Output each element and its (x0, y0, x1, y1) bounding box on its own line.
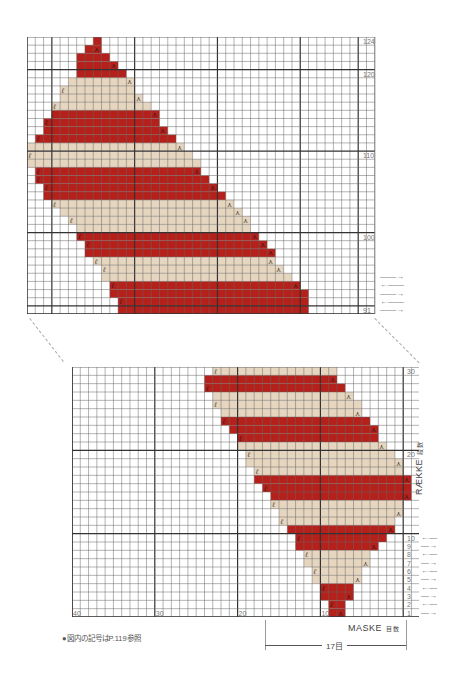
svg-text:ℓ: ℓ (36, 168, 40, 176)
svg-text:⋏: ⋏ (210, 184, 215, 192)
svg-text:ℓ: ℓ (61, 87, 65, 95)
svg-text:ℓ: ℓ (329, 601, 333, 609)
col-label: 20 (239, 610, 247, 617)
svg-text:⋏: ⋏ (136, 95, 141, 103)
svg-text:⋏: ⋏ (388, 526, 393, 534)
svg-text:⋏: ⋏ (404, 493, 409, 501)
svg-text:⋏: ⋏ (252, 233, 257, 241)
svg-text:⋏: ⋏ (94, 46, 99, 54)
svg-text:ℓ: ℓ (36, 135, 40, 143)
svg-text:⋏: ⋏ (371, 543, 376, 551)
row-label: 124 (363, 38, 375, 45)
svg-text:ℓ: ℓ (119, 298, 123, 306)
svg-text:ℓ: ℓ (304, 551, 308, 559)
svg-text:ℓ: ℓ (313, 568, 317, 576)
chart-top: ⋏⋏⋏ℓ⋏ℓ⋏ℓ⋏ℓ⋏ℓℓ⋏ℓℓ⋏ℓ⋏⋏ℓ⋏ℓ⋏ℓ⋏⋏ℓ⋏ℓ⋏ℓ⋏ℓ (27, 37, 376, 314)
svg-text:⋏: ⋏ (276, 266, 281, 274)
svg-text:ℓ: ℓ (44, 184, 48, 192)
connector-left (29, 318, 64, 362)
svg-text:⋏: ⋏ (346, 593, 351, 601)
svg-text:ℓ: ℓ (280, 518, 284, 526)
svg-text:ℓ: ℓ (255, 468, 259, 476)
svg-text:ℓ: ℓ (238, 435, 242, 443)
svg-text:ℓ: ℓ (263, 485, 267, 493)
svg-text:ℓ: ℓ (102, 266, 106, 274)
row-label: 10 (407, 535, 415, 542)
col-label: 30 (156, 610, 164, 617)
chart-bottom: ℓ⋏ℓ⋏ℓ⋏ℓ⋏ℓ⋏ℓ⋏ℓ⋏ℓ⋏ℓ⋏ℓ⋏ℓ⋏ℓ⋏ℓ⋏ℓ⋏ℓ⋏ (72, 367, 419, 617)
chart-bottom-grid: ℓ⋏ℓ⋏ℓ⋏ℓ⋏ℓ⋏ℓ⋏ℓ⋏ℓ⋏ℓ⋏ℓ⋏ℓ⋏ℓ⋏ℓ⋏ℓ⋏ℓ⋏ (72, 367, 419, 617)
svg-text:⋏: ⋏ (355, 410, 360, 418)
svg-text:ℓ: ℓ (36, 176, 40, 184)
svg-text:⋏: ⋏ (194, 168, 199, 176)
svg-text:ℓ: ℓ (213, 368, 217, 376)
svg-text:⋏: ⋏ (404, 476, 409, 484)
row-label: 1 (407, 610, 411, 617)
col-label: 40 (73, 610, 81, 617)
svg-text:⋏: ⋏ (127, 78, 132, 86)
col-label: 10 (321, 610, 329, 617)
svg-text:⋏: ⋏ (330, 376, 335, 384)
rows-axis-label: RÆKKE段数 (414, 442, 424, 495)
svg-text:⋏: ⋏ (268, 258, 273, 266)
symbol-note: ●図内の記号はP.119参照 (62, 632, 141, 643)
chart-top-grid: ⋏⋏⋏ℓ⋏ℓ⋏ℓ⋏ℓ⋏ℓℓ⋏ℓℓ⋏ℓ⋏⋏ℓ⋏ℓ⋏ℓ⋏⋏ℓ⋏ℓ⋏ℓ⋏ℓ (27, 37, 376, 314)
svg-text:⋏: ⋏ (396, 510, 401, 518)
row-label: 7 (407, 560, 411, 567)
svg-text:⋏: ⋏ (371, 426, 376, 434)
svg-text:ℓ: ℓ (85, 241, 89, 249)
stitches-axis-label: MASKE目数 (348, 623, 399, 633)
svg-text:⋏: ⋏ (243, 217, 248, 225)
row-label: 110 (363, 152, 374, 159)
svg-text:⋏: ⋏ (111, 62, 116, 70)
svg-text:⋏: ⋏ (152, 111, 157, 119)
svg-text:ℓ: ℓ (44, 119, 48, 127)
row-label: 30 (407, 368, 415, 375)
row-label: 6 (407, 568, 411, 575)
svg-text:ℓ: ℓ (52, 201, 56, 209)
row-label: 3 (407, 593, 411, 600)
svg-text:⋏: ⋏ (177, 144, 182, 152)
svg-text:ℓ: ℓ (205, 385, 209, 393)
svg-text:⋏: ⋏ (268, 249, 273, 257)
svg-text:ℓ: ℓ (52, 103, 56, 111)
svg-text:ℓ: ℓ (271, 501, 275, 509)
svg-text:ℓ: ℓ (296, 535, 300, 543)
svg-text:⋏: ⋏ (160, 127, 165, 135)
row-label: 120 (363, 71, 375, 78)
svg-text:ℓ: ℓ (94, 258, 98, 266)
svg-text:ℓ: ℓ (213, 401, 217, 409)
svg-text:⋏: ⋏ (260, 241, 265, 249)
arrow-right-icon: —→ (421, 609, 437, 617)
row-label: 8 (407, 551, 411, 558)
svg-text:⋏: ⋏ (346, 393, 351, 401)
svg-text:⋏: ⋏ (227, 201, 232, 209)
svg-text:ℓ: ℓ (321, 585, 325, 593)
stitch-count-label: 17目 (322, 640, 347, 651)
svg-text:⋏: ⋏ (379, 443, 384, 451)
svg-text:ℓ: ℓ (28, 152, 32, 160)
row-label: 5 (407, 576, 411, 583)
svg-text:⋏: ⋏ (338, 610, 343, 618)
svg-text:⋏: ⋏ (396, 460, 401, 468)
svg-text:ℓ: ℓ (69, 217, 73, 225)
svg-text:⋏: ⋏ (293, 282, 298, 290)
row-label: 100 (363, 234, 375, 241)
row-label: 91 (363, 307, 371, 314)
svg-text:⋏: ⋏ (235, 209, 240, 217)
svg-text:ℓ: ℓ (110, 282, 114, 290)
dimension-right-tick (406, 620, 407, 650)
svg-text:⋏: ⋏ (355, 576, 360, 584)
svg-text:ℓ: ℓ (222, 418, 226, 426)
svg-text:ℓ: ℓ (77, 233, 81, 241)
svg-text:⋏: ⋏ (363, 560, 368, 568)
arrow-right-icon: ——→ (380, 306, 404, 314)
row-label: 9 (407, 543, 411, 550)
svg-text:ℓ: ℓ (246, 451, 250, 459)
row-label: 2 (407, 601, 411, 608)
connector-right (374, 318, 419, 363)
row-label: 4 (407, 585, 411, 592)
